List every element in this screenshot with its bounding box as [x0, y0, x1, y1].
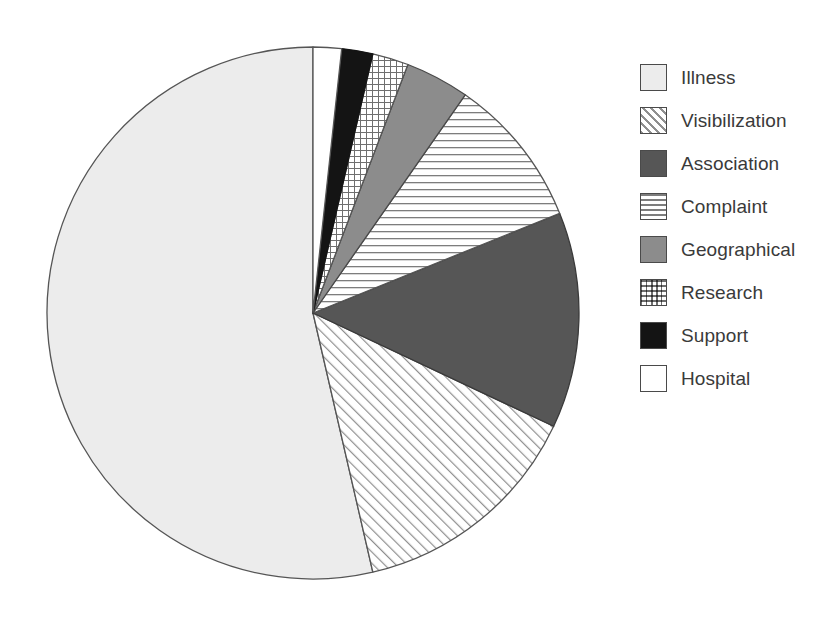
legend-item-visibilization[interactable]: Visibilization: [640, 99, 836, 142]
legend-label-research: Research: [681, 283, 763, 302]
legend-label-association: Association: [681, 154, 779, 173]
legend-item-support[interactable]: Support: [640, 314, 836, 357]
legend-label-support: Support: [681, 326, 748, 345]
legend-item-hospital[interactable]: Hospital: [640, 357, 836, 400]
legend-item-geographical[interactable]: Geographical: [640, 228, 836, 271]
legend-item-complaint[interactable]: Complaint: [640, 185, 836, 228]
chart-legend: Illness Visibilization Association Compl…: [640, 56, 836, 400]
legend-label-geographical: Geographical: [681, 240, 795, 259]
legend-label-complaint: Complaint: [681, 197, 767, 216]
legend-item-research[interactable]: Research: [640, 271, 836, 314]
pie-chart-plot-area: [0, 0, 620, 617]
legend-swatch-research: [640, 279, 667, 306]
legend-label-illness: Illness: [681, 68, 736, 87]
legend-item-association[interactable]: Association: [640, 142, 836, 185]
legend-swatch-illness: [640, 64, 667, 91]
legend-swatch-support: [640, 322, 667, 349]
pie-chart-figure: Illness Visibilization Association Compl…: [0, 0, 836, 617]
legend-label-visibilization: Visibilization: [681, 111, 787, 130]
legend-swatch-hospital: [640, 365, 667, 392]
pie-slice-group: [47, 47, 579, 579]
legend-swatch-geographical: [640, 236, 667, 263]
legend-swatch-visibilization: [640, 107, 667, 134]
legend-label-hospital: Hospital: [681, 369, 750, 388]
legend-swatch-association: [640, 150, 667, 177]
legend-swatch-complaint: [640, 193, 667, 220]
legend-item-illness[interactable]: Illness: [640, 56, 836, 99]
pie-chart-svg: [0, 0, 620, 617]
